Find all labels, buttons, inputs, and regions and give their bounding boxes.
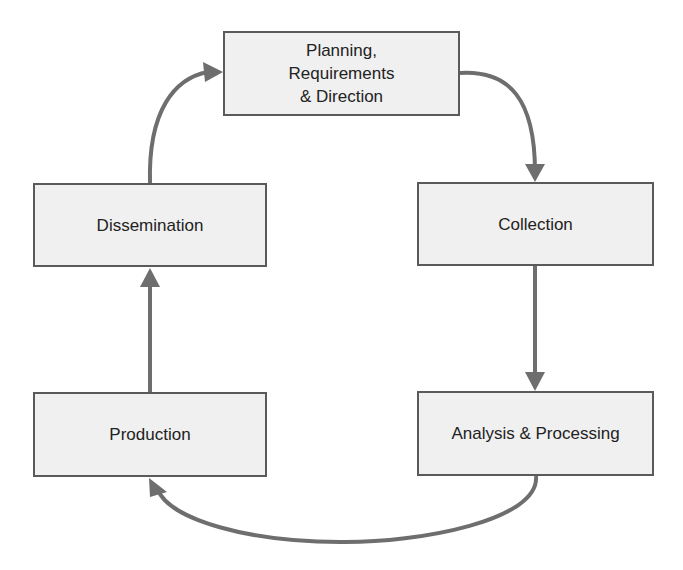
intelligence-cycle-diagram: Planning, Requirements & Direction Colle… (0, 0, 683, 570)
arrow-planning-to-collection (460, 73, 535, 172)
arrowhead-dissemination-to-planning (203, 62, 223, 82)
node-planning-requirements-direction: Planning, Requirements & Direction (223, 31, 460, 116)
node-label: Production (109, 423, 190, 446)
node-label: Planning, Requirements & Direction (289, 39, 395, 108)
arrow-dissemination-to-planning (150, 72, 208, 183)
node-analysis-processing: Analysis & Processing (417, 391, 654, 476)
arrow-analysis-to-production (158, 476, 536, 542)
node-collection: Collection (417, 182, 654, 266)
node-label: Dissemination (97, 214, 204, 237)
node-dissemination: Dissemination (33, 183, 267, 267)
node-label: Collection (498, 213, 573, 236)
arrowhead-planning-to-collection (525, 164, 545, 182)
node-label: Analysis & Processing (451, 422, 619, 445)
node-production: Production (33, 392, 267, 477)
arrowhead-analysis-to-production (149, 478, 167, 497)
arrowhead-production-to-dissemination (140, 268, 160, 287)
arrowhead-collection-to-analysis (525, 372, 545, 391)
